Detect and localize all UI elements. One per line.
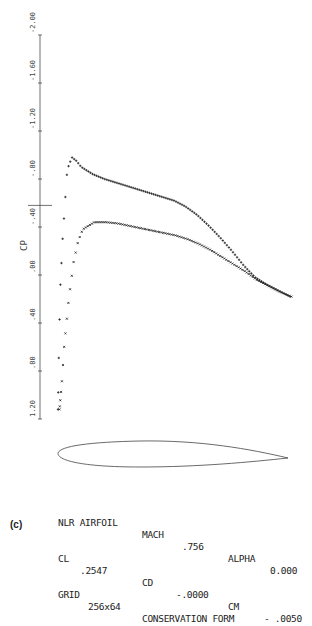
svg-text:1.20: 1.20 — [29, 400, 37, 417]
airfoil-name: NLR AIRFOIL — [58, 517, 118, 529]
cp-axis — [38, 35, 42, 419]
svg-text:.40: .40 — [29, 308, 37, 321]
alpha-label: ALPHA — [228, 553, 255, 565]
grid-label: GRID — [58, 589, 80, 601]
cl-label: CL — [58, 553, 69, 565]
cd-value: -.0000 — [176, 589, 209, 601]
svg-text:-2.00: -2.00 — [29, 12, 37, 33]
mach-value: .756 — [182, 541, 204, 553]
grid-value: 256x64 — [88, 601, 121, 613]
run-info-block: NLR AIRFOIL MACH .756 ALPHA 0.000 CL .25… — [58, 481, 80, 601]
figure-label: (c) — [10, 519, 22, 530]
svg-text:-.80: -.80 — [29, 160, 37, 177]
cp-axis-label: CP — [19, 240, 29, 251]
svg-text:.00: .00 — [29, 260, 37, 273]
cp-tick-labels: -2.00-1.60-1.20-.80-.40.00.40.801.20 — [29, 12, 37, 417]
svg-text:-1.60: -1.60 — [29, 60, 37, 81]
alpha-value: 0.000 — [270, 565, 297, 577]
airfoil-outline — [58, 441, 288, 467]
cm-value: - .0050 — [264, 613, 302, 625]
solver-form: CONSERVATION FORM — [142, 613, 234, 625]
svg-text:-1.20: -1.20 — [29, 108, 37, 129]
svg-text:.80: .80 — [29, 356, 37, 369]
lower-surface-series — [59, 221, 293, 410]
upper-surface-series — [57, 156, 291, 410]
cm-label: CM — [228, 601, 239, 613]
cd-label: CD — [142, 577, 153, 589]
mach-label: MACH — [142, 529, 164, 541]
svg-text:-.40: -.40 — [29, 208, 37, 225]
cl-value: .2547 — [80, 565, 107, 577]
